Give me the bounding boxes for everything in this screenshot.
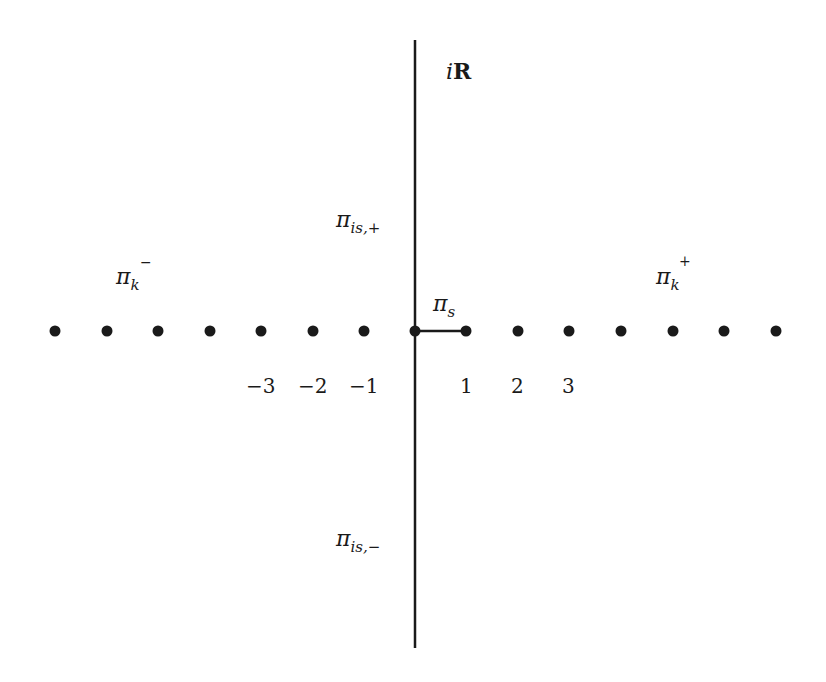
pi-symbol: π [336,207,350,232]
tick-label-neg1: −1 [349,374,378,398]
axis-label-iR: iR [446,58,471,84]
superscript: − [140,254,152,270]
pi-symbol: π [116,264,130,289]
tick-label-3: 3 [562,374,575,398]
integer-point-3 [564,326,575,337]
axis-label-prefix: i [446,59,453,84]
integer-points [50,326,782,337]
tick-label-neg3: −3 [246,374,275,398]
tick-label-neg2: −2 [298,374,327,398]
pi-symbol: π [433,291,447,316]
pi-symbol: π [656,264,670,289]
tick-label-1: 1 [460,374,473,398]
integer-point--4 [205,326,216,337]
integer-point--2 [308,326,319,337]
integer-point-6 [719,326,730,337]
integer-point-2 [513,326,524,337]
integer-point--3 [256,326,267,337]
label-pi-s: πs [433,291,455,316]
superscript: + [679,253,691,269]
subscript: s [447,303,455,321]
integer-point--1 [359,326,370,337]
axis-label-main: R [453,58,471,84]
subscript: is,+ [350,219,380,237]
integer-point-0 [410,326,421,337]
subscript: is,− [350,538,380,556]
integer-point-7 [771,326,782,337]
integer-point--5 [153,326,164,337]
label-pi-is-minus: πis,− [336,526,380,551]
integer-point--7 [50,326,61,337]
diagram-canvas [0,0,826,682]
pi-symbol: π [336,526,350,551]
integer-point-5 [668,326,679,337]
integer-point-1 [461,326,472,337]
integer-point-4 [616,326,627,337]
label-pi-k-minus: πk − [116,264,140,289]
tick-label-2: 2 [511,374,524,398]
label-pi-is-plus: πis,+ [336,207,380,232]
subscript: k [130,276,139,294]
subscript: k [670,276,679,294]
integer-point--6 [102,326,113,337]
label-pi-k-plus: πk + [656,264,680,289]
